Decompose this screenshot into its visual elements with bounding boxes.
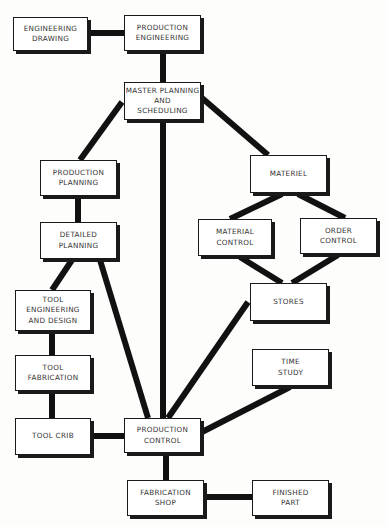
node-label: TOOL ENGINEERING AND DESIGN [26,295,79,325]
node-label: FABRICATION SHOP [140,488,191,508]
node-finished-part: FINISHED PART [252,480,329,516]
node-master-planning: MASTER PLANNING AND SCHEDULING [124,82,201,120]
node-fabrication-shop: FABRICATION SHOP [127,480,204,516]
node-label: PRODUCTION ENGINEERING [136,23,189,43]
node-tool-fabrication: TOOL FABRICATION [15,355,91,391]
node-label: MATERIAL CONTROL [216,227,254,247]
node-material-control: MATERIAL CONTROL [198,219,272,256]
node-materiel: MATERIEL [250,155,327,193]
node-label: ORDER CONTROL [320,226,357,246]
node-label: TOOL FABRICATION [28,363,79,383]
node-production-planning: PRODUCTION PLANNING [40,160,117,196]
node-time-study: TIME STUDY [252,349,329,386]
node-tool-crib: TOOL CRIB [15,418,91,455]
node-label: FINISHED PART [272,488,308,508]
node-label: TIME STUDY [278,357,303,377]
node-label: PRODUCTION PLANNING [53,168,104,188]
node-label: ENGINEERING DRAWING [24,24,77,44]
node-detailed-planning: DETAILED PLANNING [40,222,117,259]
node-production-engineering: PRODUCTION ENGINEERING [124,15,201,51]
node-label: MATERIEL [270,169,308,179]
node-engineering-drawing: ENGINEERING DRAWING [13,17,88,51]
node-label: TOOL CRIB [32,431,74,441]
node-label: PRODUCTION CONTROL [137,425,188,445]
node-label: MASTER PLANNING AND SCHEDULING [126,86,200,116]
node-tool-engineering: TOOL ENGINEERING AND DESIGN [15,290,91,331]
node-label: STORES [273,297,304,307]
node-production-control: PRODUCTION CONTROL [124,418,201,453]
node-stores: STORES [250,283,327,321]
node-order-control: ORDER CONTROL [300,218,377,254]
node-label: DETAILED PLANNING [59,230,99,250]
